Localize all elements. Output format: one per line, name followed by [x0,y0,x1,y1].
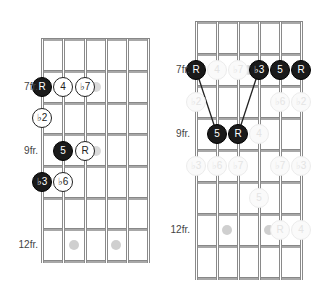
note-ghost: 5 [249,188,269,208]
fret-label: 12fr. [160,224,190,235]
note-ghost: ♭2 [291,92,311,112]
note-black: R [291,60,311,80]
note-ghost: ♭7 [270,156,290,176]
note-black: 5 [207,124,227,144]
note-ghost: ♭7 [228,60,248,80]
fret-label: 9fr. [160,128,190,139]
note-ghost: ♭6 [270,92,290,112]
note-ghost: ♭7 [228,156,248,176]
note-ghost: ♭3 [186,156,206,176]
note-ghost: R [270,220,290,240]
note-ghost: ♭3 [291,156,311,176]
fret-label: 7fr. [160,64,190,75]
note-ghost: 4 [207,60,227,80]
note-black: 5 [270,60,290,80]
note-ghost: 4 [291,220,311,240]
note-ghost: ♭2 [186,92,206,112]
note-black: R [228,124,248,144]
note-ghost: 4 [249,124,269,144]
connector-lines [0,0,325,292]
note-black: ♭3 [249,60,269,80]
note-ghost: ♭6 [207,156,227,176]
